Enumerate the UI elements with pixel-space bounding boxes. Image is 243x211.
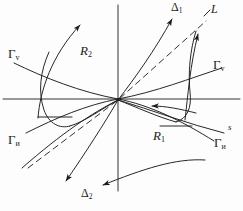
delta-glyph: Δ xyxy=(81,186,89,200)
label-separatrix-s: s xyxy=(228,123,232,132)
curve-l-letter: L xyxy=(211,2,218,16)
label-delta-2: Δ2 xyxy=(81,187,92,200)
label-region-r1: R1 xyxy=(153,129,165,144)
gamma-i-left-subscript: и xyxy=(16,139,20,148)
gamma-glyph: Γ xyxy=(8,46,16,61)
delta-1-subscript: 1 xyxy=(179,6,183,15)
separatrix-s-letter: s xyxy=(228,122,232,132)
region-r1-letter: R xyxy=(153,128,161,143)
gamma-i-right-subscript: и xyxy=(222,142,226,151)
upper-left-trajectory xyxy=(38,25,80,118)
label-gamma-v-right: Γv xyxy=(213,58,225,73)
delta-2-subscript: 2 xyxy=(89,192,93,201)
L-dashed-line xyxy=(28,21,206,168)
gamma-v-right-branch xyxy=(118,68,222,99)
lower-left-long-trajectory xyxy=(22,100,118,168)
label-curve-l: L xyxy=(211,3,218,15)
gamma-v-right-subscript: v xyxy=(221,64,225,73)
gamma-glyph: Γ xyxy=(214,135,222,150)
region-r1-subscript: 1 xyxy=(161,135,165,144)
gamma-glyph: Γ xyxy=(213,57,221,72)
gamma-v-left-branch xyxy=(14,63,118,99)
diagram-figure: Γv Γv Γи Γи R2 R1 Δ1 Δ2 L s xyxy=(0,0,243,211)
region-r2-subscript: 2 xyxy=(88,50,92,59)
left-turning-curve-upper xyxy=(41,52,70,127)
delta-glyph: Δ xyxy=(171,0,179,14)
label-gamma-i-left: Γи xyxy=(8,133,20,148)
region-r2-letter: R xyxy=(80,43,88,58)
label-delta-1: Δ1 xyxy=(171,1,182,14)
right-turning-curve-lower xyxy=(118,100,176,122)
label-region-r2: R2 xyxy=(80,44,92,59)
gamma-v-left-subscript: v xyxy=(16,53,20,62)
diagram-canvas xyxy=(0,0,243,211)
delta-1-trajectory xyxy=(118,19,172,100)
L-tick-mark xyxy=(204,10,210,16)
label-gamma-v-left: Γv xyxy=(8,47,20,62)
label-gamma-i-right: Γи xyxy=(214,136,226,151)
s-separatrix xyxy=(118,100,224,133)
gamma-glyph: Γ xyxy=(8,132,16,147)
